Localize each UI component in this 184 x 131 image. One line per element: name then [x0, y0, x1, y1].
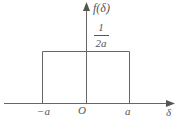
fraction-numerator: 1 — [88, 22, 114, 34]
origin-label: O — [78, 105, 86, 116]
figure-canvas — [0, 0, 184, 131]
fraction-bar — [94, 35, 109, 36]
y-axis-arrowhead — [83, 2, 90, 11]
x-tick-label-positive-a: a — [125, 106, 131, 117]
y-axis-label: f(δ) — [93, 2, 110, 14]
x-tick-label-negative-a: −a — [37, 106, 50, 117]
uniform-distribution-figure: f(δ) 1 2a −a O a δ — [0, 0, 184, 131]
x-axis-label: δ — [166, 107, 171, 118]
height-fraction-label: 1 2a — [88, 22, 114, 49]
fraction-denominator: 2a — [88, 37, 114, 49]
